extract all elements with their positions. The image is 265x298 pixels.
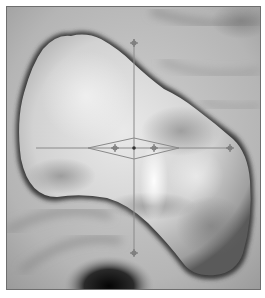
endoscopy-render	[7, 7, 260, 289]
center-point[interactable]	[132, 146, 136, 150]
render-viewport[interactable]: Grayscale 3D surface rendering (virtual …	[6, 6, 261, 290]
